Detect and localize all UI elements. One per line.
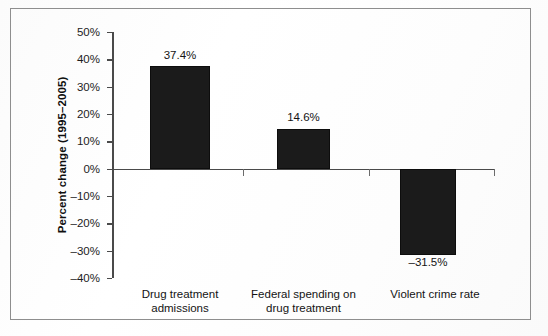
y-tick-6: –10% <box>107 196 112 197</box>
y-tick-label-6: –10% <box>71 190 100 202</box>
category-label-line-2: drug treatment <box>237 301 370 315</box>
category-label-line-1: Drug treatment <box>120 287 240 301</box>
bar-value-drug-treatment-admissions: 37.4% <box>150 49 210 61</box>
y-tick-0: 50% <box>107 32 112 33</box>
y-tick-label-5: 0% <box>83 163 100 175</box>
category-label-drug-treatment-admissions: Drug treatment admissions <box>120 287 240 315</box>
category-tick-3 <box>494 169 495 176</box>
y-tick-8: –30% <box>107 251 112 252</box>
bar-drug-treatment-admissions[interactable] <box>150 66 210 168</box>
plot-area: 50% 40% 30% 20% 10% 0% –10% –20% –30% –4… <box>112 32 495 278</box>
y-tick-label-3: 20% <box>77 108 100 120</box>
y-axis-spine <box>112 32 114 278</box>
category-label-line-2: admissions <box>120 301 240 315</box>
bar-value-violent-crime-rate: –31.5% <box>395 256 461 268</box>
y-tick-label-7: –20% <box>71 217 100 229</box>
chart-page: Percent change (1995–2005) 50% 40% 30% 2… <box>0 0 548 336</box>
bar-federal-spending[interactable] <box>277 129 330 169</box>
y-tick-label-9: –40% <box>71 272 100 284</box>
category-label-line-1: Federal spending on <box>237 287 370 301</box>
category-label-line-1: Violent crime rate <box>375 287 495 301</box>
y-tick-9: –40% <box>107 278 112 279</box>
y-tick-7: –20% <box>107 223 112 224</box>
category-tick-2 <box>369 169 370 176</box>
y-tick-4: 10% <box>107 141 112 142</box>
category-label-violent-crime-rate: Violent crime rate <box>375 287 495 301</box>
y-tick-label-2: 30% <box>77 81 100 93</box>
y-tick-3: 20% <box>107 114 112 115</box>
category-tick-1 <box>243 169 244 176</box>
category-label-federal-spending: Federal spending on drug treatment <box>237 287 370 315</box>
y-tick-1: 40% <box>107 59 112 60</box>
y-tick-label-8: –30% <box>71 245 100 257</box>
y-tick-2: 30% <box>107 87 112 88</box>
y-axis-title-text: Percent change (1995–2005) <box>56 77 68 234</box>
y-tick-5: 0% <box>107 169 112 170</box>
y-tick-label-0: 50% <box>77 26 100 38</box>
bar-violent-crime-rate[interactable] <box>400 169 456 255</box>
y-axis-title: Percent change (1995–2005) <box>53 32 71 278</box>
y-tick-label-1: 40% <box>77 53 100 65</box>
bar-value-federal-spending: 14.6% <box>277 111 330 123</box>
y-tick-label-4: 10% <box>77 135 100 147</box>
